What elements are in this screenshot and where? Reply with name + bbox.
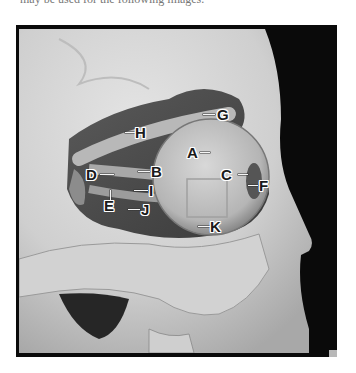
leader-line-d — [100, 174, 114, 175]
anatomy-image: G H A B C D F I E J K — [16, 25, 337, 357]
skull-illustration — [19, 29, 329, 353]
label-i: I — [149, 183, 153, 198]
leader-line-g — [203, 114, 215, 115]
leader-line-k — [198, 226, 210, 227]
label-f: F — [259, 178, 268, 193]
watermark-icon — [329, 350, 337, 357]
label-d: D — [86, 167, 97, 182]
label-e: E — [104, 198, 114, 213]
leader-line-c — [238, 174, 248, 175]
leader-line-j — [128, 209, 140, 210]
label-a: A — [187, 145, 198, 160]
label-k: K — [210, 219, 221, 234]
leader-line-b — [138, 171, 150, 172]
leader-line-h — [125, 132, 135, 133]
label-g: G — [217, 107, 229, 122]
label-j: J — [141, 202, 149, 217]
leader-line-a — [200, 152, 210, 153]
label-h: H — [135, 125, 146, 140]
leader-line-i — [134, 190, 148, 191]
label-b: B — [151, 164, 162, 179]
figure-caption: may be used for the following images. — [20, 0, 340, 6]
leader-line-f — [248, 185, 258, 186]
label-c: C — [221, 167, 232, 182]
